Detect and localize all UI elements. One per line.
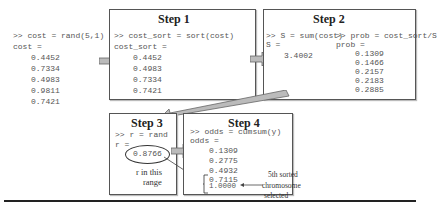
step3-rand-value: 0.8766	[133, 148, 162, 159]
init-value-0: 0.4452	[31, 52, 60, 63]
step4-value-4: 1.0000	[209, 182, 236, 191]
step2-output-left-label: S =	[266, 39, 280, 50]
step1-value-2: 0.7334	[133, 74, 162, 85]
step3-output-label: r =	[115, 139, 129, 150]
bracket-icon	[203, 174, 209, 194]
step2-value-4: 0.2885	[355, 84, 384, 95]
init-value-3: 0.9811	[31, 85, 60, 96]
step2-sum-value: 3.4002	[284, 50, 313, 61]
bottom-divider	[4, 200, 416, 202]
init-value-2: 0.4983	[31, 74, 60, 85]
init-command: >> cost = rand(5,1)	[13, 30, 104, 41]
step4-annotation-line1: 5th sorted	[268, 169, 298, 180]
step1-value-0: 0.4452	[133, 52, 162, 63]
step2-title: Step 2	[313, 12, 345, 27]
left-arrow-icon	[240, 182, 264, 188]
init-output-label: cost =	[13, 41, 42, 52]
step1-command: >> cost_sort = sort(cost)	[114, 30, 234, 41]
init-value-1: 0.7334	[31, 63, 60, 74]
step1-title: Step 1	[158, 12, 190, 27]
step1-output-label: cost_sort =	[114, 41, 167, 52]
step1-value-1: 0.4983	[133, 63, 162, 74]
init-value-4: 0.7421	[31, 96, 60, 107]
